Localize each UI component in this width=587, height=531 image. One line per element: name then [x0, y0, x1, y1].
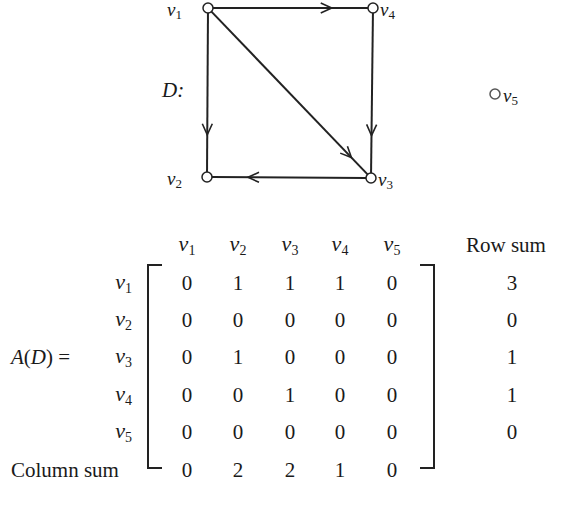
- row-sum-value: 0: [507, 310, 518, 331]
- row-header: v4: [115, 383, 132, 408]
- matrix-cell: 0: [233, 385, 244, 406]
- matrix-cell: 0: [182, 310, 193, 331]
- arcs: [202, 3, 376, 182]
- matrix-cell: 0: [335, 347, 346, 368]
- graph-name-label: D:: [162, 80, 184, 101]
- vertex-label-v5: v5: [503, 86, 518, 107]
- column-header: v2: [230, 233, 247, 258]
- column-header: v1: [179, 233, 196, 258]
- column-sum-value: 2: [233, 460, 244, 481]
- vertex-v3: [366, 173, 376, 183]
- vertex-v1: [203, 3, 213, 13]
- matrix-cell: 1: [285, 273, 296, 294]
- row-header: v5: [115, 420, 132, 445]
- matrix-cell: 0: [335, 310, 346, 331]
- row-header: v1: [115, 271, 132, 296]
- right-bracket: [420, 264, 435, 469]
- matrix-cell: 0: [285, 422, 296, 443]
- column-header: v4: [332, 233, 349, 258]
- column-sum-value: 0: [182, 460, 193, 481]
- digraph-d: [0, 0, 587, 200]
- matrix-label: A(D) =: [11, 347, 70, 368]
- column-header: v5: [384, 233, 401, 258]
- vertex-v5: [490, 89, 500, 99]
- matrix-cell: 0: [387, 385, 398, 406]
- matrix-cell: 0: [182, 273, 193, 294]
- matrix-cell: 0: [233, 422, 244, 443]
- arc-v3-v2: [212, 177, 366, 178]
- vertex-label-v4: v4: [380, 0, 395, 21]
- matrix-cell: 0: [335, 422, 346, 443]
- matrix-cell: 0: [387, 273, 398, 294]
- matrix-cell: 0: [387, 310, 398, 331]
- matrix-cell: 0: [285, 310, 296, 331]
- figure-caption-clipped: [230, 521, 370, 531]
- matrix-cell: 0: [182, 422, 193, 443]
- row-sum-value: 3: [507, 273, 518, 294]
- row-sum-header: Row sum: [466, 235, 546, 256]
- vertex-label-v1: v1: [167, 0, 182, 21]
- vertex-v4: [368, 3, 378, 13]
- matrix-cell: 0: [387, 422, 398, 443]
- matrix-cell: 0: [285, 347, 296, 368]
- vertex-label-v3: v3: [378, 170, 393, 191]
- matrix-cell: 1: [233, 347, 244, 368]
- row-header: v3: [115, 345, 132, 370]
- matrix-cell: 0: [182, 347, 193, 368]
- arc-v4-v3: [371, 13, 373, 173]
- left-bracket: [147, 264, 162, 469]
- matrix-cell: 0: [387, 347, 398, 368]
- column-sum-value: 1: [335, 460, 346, 481]
- arc-v1-v2: [207, 13, 208, 172]
- matrix-cell: 0: [233, 310, 244, 331]
- row-header: v2: [115, 308, 132, 333]
- matrix-cell: 1: [233, 273, 244, 294]
- column-sum-value: 0: [387, 460, 398, 481]
- matrix-cell: 0: [182, 385, 193, 406]
- row-sum-value: 1: [507, 385, 518, 406]
- arc-v1-v3: [211, 12, 367, 175]
- row-sum-value: 0: [507, 422, 518, 443]
- matrix-cell: 1: [335, 273, 346, 294]
- column-sum-value: 2: [285, 460, 296, 481]
- vertex-label-v2: v2: [167, 169, 182, 190]
- matrix-cell: 1: [285, 385, 296, 406]
- row-sum-value: 1: [507, 347, 518, 368]
- column-sum-label: Column sum: [11, 460, 119, 481]
- column-header: v3: [282, 233, 299, 258]
- vertex-v2: [202, 172, 212, 182]
- matrix-cell: 0: [335, 385, 346, 406]
